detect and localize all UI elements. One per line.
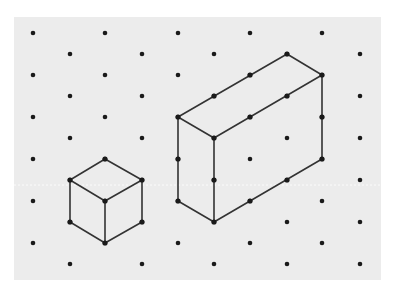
grid-dot [358, 52, 363, 57]
grid-dot [358, 220, 363, 225]
cuboid-vertex [211, 135, 216, 140]
grid-dot [320, 31, 325, 36]
cuboid-vertex [284, 177, 289, 182]
cuboid-vertex [319, 72, 324, 77]
grid-dot [31, 199, 36, 204]
cube-vertex [139, 177, 144, 182]
grid-dot [68, 52, 73, 57]
grid-dot [31, 73, 36, 78]
cuboid-vertex [284, 93, 289, 98]
grid-dot [103, 73, 108, 78]
cuboid-vertex [247, 198, 252, 203]
cube-vertex [102, 156, 107, 161]
grid-dot [68, 94, 73, 99]
grid-dot [103, 31, 108, 36]
grid-dot [31, 31, 36, 36]
grid-dot [320, 241, 325, 246]
isometric-dot-paper-figure [0, 0, 397, 295]
grid-dot [140, 262, 145, 267]
grid-dot [285, 262, 290, 267]
grid-dot [140, 52, 145, 57]
grid-dot [358, 136, 363, 141]
grid-dot [248, 241, 253, 246]
grid-dot [248, 31, 253, 36]
dot-paper-background [14, 17, 381, 280]
grid-dot [248, 157, 253, 162]
grid-dot [358, 178, 363, 183]
grid-dot [285, 136, 290, 141]
grid-dot [103, 115, 108, 120]
grid-dot [31, 241, 36, 246]
cuboid-vertex [247, 114, 252, 119]
cuboid-vertex [284, 51, 289, 56]
grid-dot [31, 157, 36, 162]
grid-dot [176, 73, 181, 78]
grid-dot [358, 94, 363, 99]
grid-dot [31, 115, 36, 120]
grid-dot [140, 136, 145, 141]
grid-dot [320, 199, 325, 204]
cube-vertex [139, 219, 144, 224]
grid-dot [212, 52, 217, 57]
cuboid-vertex [319, 156, 324, 161]
grid-dot [176, 31, 181, 36]
grid-dot [68, 262, 73, 267]
cube-vertex [67, 177, 72, 182]
cuboid-vertex [175, 156, 180, 161]
cuboid-vertex [211, 219, 216, 224]
cuboid-vertex [175, 198, 180, 203]
cuboid-vertex [319, 114, 324, 119]
grid-dot [212, 262, 217, 267]
cuboid-vertex [175, 114, 180, 119]
grid-dot [358, 262, 363, 267]
cuboid-vertex [247, 72, 252, 77]
grid-dot [176, 241, 181, 246]
grid-dot [68, 136, 73, 141]
grid-dot [140, 94, 145, 99]
cuboid-vertex [211, 177, 216, 182]
cube-vertex [67, 219, 72, 224]
cuboid-vertex [211, 93, 216, 98]
grid-dot [285, 220, 290, 225]
cube-vertex [102, 198, 107, 203]
cube-vertex [102, 240, 107, 245]
